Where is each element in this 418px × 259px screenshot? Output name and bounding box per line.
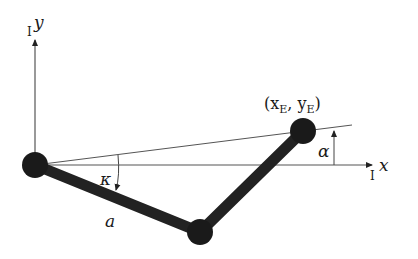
end-effector-joint <box>290 118 316 144</box>
x-axis-prefix: I <box>370 169 375 183</box>
end-effector-label: (xE, yE) <box>264 94 321 116</box>
base-joint <box>22 152 48 178</box>
y-axis-prefix: I <box>27 25 32 39</box>
manipulator-diagram: I y I x (xE, yE) α κ a <box>0 0 418 259</box>
alpha-label: α <box>318 141 330 161</box>
kappa-label: κ <box>99 169 111 189</box>
kappa-arc <box>116 155 119 190</box>
y-axis-label: y <box>33 12 44 32</box>
link-b <box>200 131 303 232</box>
x-axis-label: x <box>379 155 389 175</box>
link-a-label: a <box>105 211 115 231</box>
link-a <box>35 165 200 232</box>
elbow-joint <box>187 219 213 245</box>
